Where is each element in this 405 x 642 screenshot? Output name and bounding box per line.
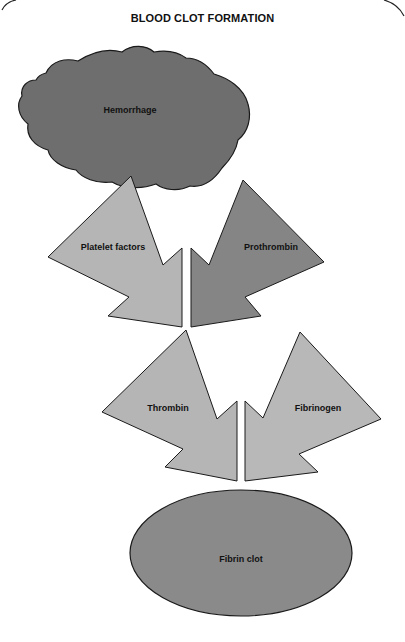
fibrinogen-label: Fibrinogen (295, 403, 342, 413)
platelet-factors-label: Platelet factors (81, 242, 146, 252)
hemorrhage-label: Hemorrhage (103, 105, 156, 115)
prothrombin-label: Prothrombin (244, 242, 298, 252)
diagram-canvas (0, 0, 405, 642)
fibrin-clot-label: Fibrin clot (219, 554, 263, 564)
thrombin-label: Thrombin (147, 403, 189, 413)
hemorrhage-cloud-shape (19, 46, 250, 189)
fibrin-clot-ellipse-shape (130, 490, 352, 616)
prothrombin-arrow-shape (191, 180, 324, 327)
